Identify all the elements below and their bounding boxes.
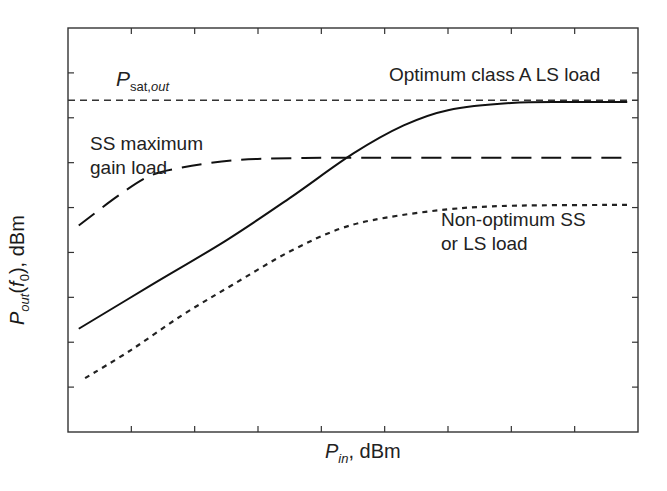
optimum-class-a-label: Optimum class A LS load: [389, 64, 600, 86]
y-axis-label: Pout(f0), dBm: [6, 215, 29, 325]
x-axis-label-sub: in: [338, 451, 348, 466]
x-axis-label-unit: , dBm: [348, 440, 400, 462]
x-axis-label: Pin, dBm: [325, 440, 401, 462]
y-axis-label-unit: , dBm: [6, 215, 28, 267]
psat-label-main: P: [116, 67, 130, 90]
y-axis-label-arg: f: [6, 281, 28, 287]
y-axis-label-main: P: [6, 312, 28, 325]
ss-max-gain-label-line1: SS maximum: [90, 133, 203, 155]
y-axis-label-close: ): [6, 267, 28, 274]
y-axis-label-open: (: [6, 287, 28, 294]
psat-label-sub-italic: out: [151, 79, 169, 94]
non-optimum-label-line2: or LS load: [441, 233, 528, 255]
y-axis-label-arg-sub: 0: [17, 274, 32, 281]
x-axis-label-main: P: [325, 440, 338, 462]
psat-label-sub: sat,: [130, 79, 151, 94]
psat-label: Psat,out: [116, 68, 169, 90]
non-optimum-label-line1: Non-optimum SS: [441, 209, 586, 231]
y-axis-label-sub: out: [17, 294, 32, 312]
ss-max-gain-label-line2: gain load: [90, 157, 167, 179]
